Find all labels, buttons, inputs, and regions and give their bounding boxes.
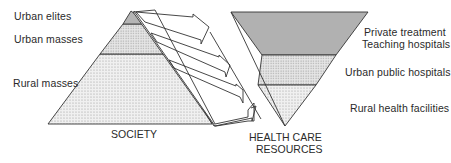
label-rural-health-facilities: Rural health facilities: [350, 102, 449, 114]
label-teaching-hospitals: Teaching hospitals: [362, 38, 450, 50]
rural-health-layer: [258, 85, 316, 126]
label-urban-masses: Urban masses: [14, 33, 83, 45]
caption-health-care: HEALTH CARE: [249, 131, 322, 143]
label-urban-elites: Urban elites: [14, 10, 71, 22]
label-rural-masses: Rural masses: [13, 77, 78, 89]
label-urban-public-hospitals: Urban public hospitals: [345, 66, 451, 78]
caption-resources: RESOURCES: [256, 143, 323, 155]
private-teaching-layer: [231, 12, 368, 55]
urban-public-layer: [258, 55, 336, 85]
label-private-treatment: Private treatment: [364, 26, 446, 38]
caption-society: SOCIETY: [111, 128, 157, 140]
